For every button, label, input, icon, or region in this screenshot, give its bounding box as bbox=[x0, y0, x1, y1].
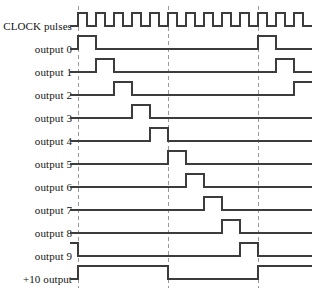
wave-clock-pulses bbox=[70, 13, 312, 26]
wave-output-1 bbox=[70, 59, 312, 72]
wave-output-6 bbox=[70, 174, 312, 187]
signal-trace-layer bbox=[70, 13, 312, 279]
wave-output-5 bbox=[70, 151, 312, 164]
wave-output-7 bbox=[70, 197, 312, 210]
timing-diagram: CLOCK pulses output 0 output 1 output 2 … bbox=[0, 0, 314, 292]
wave-output-8 bbox=[70, 220, 312, 233]
wave-output-0 bbox=[70, 36, 312, 49]
wave-output-9 bbox=[70, 243, 312, 256]
cycle-marker-layer bbox=[78, 6, 258, 288]
wave-carry-output bbox=[70, 266, 312, 279]
wave-output-3 bbox=[70, 105, 312, 118]
wave-output-2 bbox=[70, 82, 312, 95]
wave-output-4 bbox=[70, 128, 312, 141]
waveform-canvas bbox=[0, 0, 314, 292]
